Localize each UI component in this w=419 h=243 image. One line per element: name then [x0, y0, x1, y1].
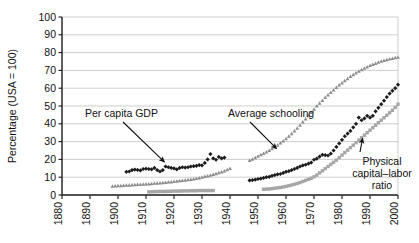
chart-container: 0102030405060708090100 18801890190019101… — [0, 0, 419, 243]
svg-text:1880: 1880 — [52, 202, 64, 226]
svg-text:20: 20 — [44, 153, 56, 165]
annotation-average-schooling: Average schooling — [228, 108, 314, 120]
svg-text:Percentage (USA = 100): Percentage (USA = 100) — [6, 49, 18, 163]
svg-text:1960: 1960 — [276, 202, 288, 226]
grid-lines — [62, 17, 398, 177]
svg-text:1890: 1890 — [80, 202, 92, 226]
svg-text:1970: 1970 — [304, 202, 316, 226]
annotation-capital-line1: Physical — [362, 155, 401, 167]
svg-text:100: 100 — [38, 11, 56, 23]
svg-text:1920: 1920 — [164, 202, 176, 226]
svg-text:1910: 1910 — [136, 202, 148, 226]
chart-plot-area: 0102030405060708090100 18801890190019101… — [0, 0, 419, 243]
y-axis-title: Percentage (USA = 100) — [6, 49, 18, 163]
svg-text:1990: 1990 — [360, 202, 372, 226]
annotation-capital-line2: capital–labor — [352, 167, 412, 179]
svg-text:80: 80 — [44, 46, 56, 58]
svg-text:1900: 1900 — [108, 202, 120, 226]
svg-text:2000: 2000 — [388, 202, 400, 226]
annotation-physical-capital-labor-ratio: Physical capital–labor ratio — [346, 155, 418, 191]
annotation-capital-line3: ratio — [372, 179, 392, 191]
svg-text:1950: 1950 — [248, 202, 260, 226]
svg-text:30: 30 — [44, 135, 56, 147]
svg-text:90: 90 — [44, 28, 56, 40]
svg-text:70: 70 — [44, 64, 56, 76]
svg-text:40: 40 — [44, 117, 56, 129]
svg-text:1930: 1930 — [192, 202, 204, 226]
y-axis-tick-labels: 0102030405060708090100 — [38, 11, 56, 201]
annotation-per-capita-gdp: Per capita GDP — [85, 108, 158, 120]
svg-text:1980: 1980 — [332, 202, 344, 226]
svg-text:60: 60 — [44, 82, 56, 94]
svg-text:10: 10 — [44, 171, 56, 183]
x-axis-tick-labels: 1880189019001910192019301940195019601970… — [52, 202, 400, 226]
svg-text:1940: 1940 — [220, 202, 232, 226]
svg-text:50: 50 — [44, 100, 56, 112]
svg-text:0: 0 — [50, 189, 56, 201]
